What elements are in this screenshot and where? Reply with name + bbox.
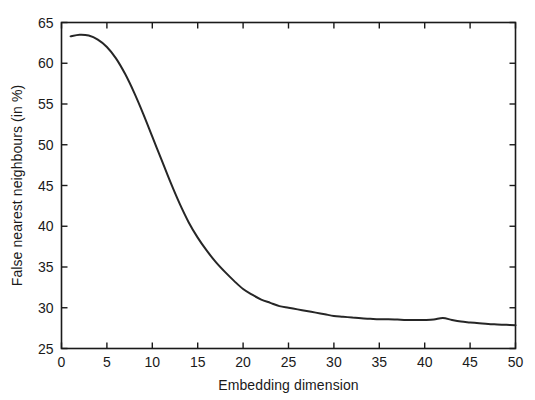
x-axis-label: Embedding dimension [218, 377, 358, 393]
y-tick-label: 50 [38, 137, 54, 153]
y-tick-label: 60 [38, 55, 54, 71]
x-tick-label: 10 [145, 354, 161, 370]
x-tick-label: 35 [372, 354, 388, 370]
y-tick-label: 25 [38, 341, 54, 357]
y-axis-label: False nearest neighbours (in %) [9, 85, 25, 287]
x-tick-label: 15 [190, 354, 206, 370]
x-tick-label: 5 [103, 354, 111, 370]
x-tick-label: 50 [508, 354, 524, 370]
x-tick-label: 45 [462, 354, 478, 370]
y-tick-label: 30 [38, 300, 54, 316]
y-tick-label: 35 [38, 259, 54, 275]
y-tick-label: 45 [38, 178, 54, 194]
y-tick-label: 65 [38, 15, 54, 31]
plot-frame [62, 23, 516, 349]
plot-area: 05101520253035404550253035404550556065Em… [9, 15, 523, 394]
x-tick-label: 30 [326, 354, 342, 370]
false-nearest-neighbours-line-chart: 05101520253035404550253035404550556065Em… [0, 0, 535, 400]
chart-figure: 05101520253035404550253035404550556065Em… [0, 0, 535, 400]
y-tick-label: 40 [38, 218, 54, 234]
y-tick-label: 55 [38, 96, 54, 112]
x-tick-label: 0 [58, 354, 66, 370]
x-tick-label: 40 [417, 354, 433, 370]
x-tick-label: 20 [235, 354, 251, 370]
x-tick-label: 25 [281, 354, 297, 370]
